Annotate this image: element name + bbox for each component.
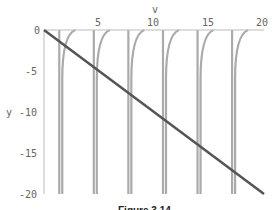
tan-branch [128,30,144,194]
x-tick-20: 20 [256,17,268,28]
x-axis-label: v [152,4,158,15]
y-tick-m5: -5 [25,66,37,77]
y-tick-0: 0 [34,25,40,36]
y-tick-m20: -20 [19,189,37,200]
y-tick-m15: -15 [19,148,37,159]
y-axis-label: y [6,107,12,118]
chart: 5 10 15 20 v 0 -5 -10 -15 -20 y Figure 3… [0,0,277,210]
x-tick-5: 5 [95,17,101,28]
tan-branch [163,30,179,194]
figure-caption: Figure 3.14 [118,205,171,210]
x-tick-10: 10 [147,17,159,28]
x-tick-15: 15 [202,17,214,28]
tan-branch [59,30,75,194]
tan-branch [94,30,110,194]
y-tick-m10: -10 [19,107,37,118]
tan-branch [232,30,248,194]
tan-branch [198,30,214,194]
